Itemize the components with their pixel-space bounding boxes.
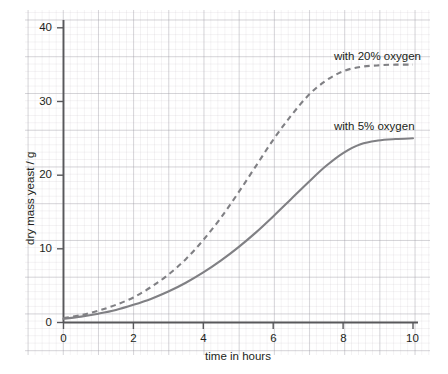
chart-figure: 40 30 20 10 0 0 2 4 6 8 10 dry mass yeas… [0,0,448,374]
series-annotation-20-percent-oxygen: with 20% oxygen [334,51,421,63]
xtick-label-0: 0 [52,333,75,345]
xtick-label-6: 6 [262,333,285,345]
xtick-label-10: 10 [401,333,424,345]
data-series-group [64,65,414,319]
xtick-label-2: 2 [122,333,145,345]
tick-marks [57,28,413,329]
ytick-label-30: 30 [30,96,52,108]
series-annotation-5-percent-oxygen: with 5% oxygen [334,121,415,133]
y-axis-title: dry mass yeast / g [24,152,36,245]
ytick-label-40: 40 [30,22,52,34]
ytick-label-0: 0 [30,317,52,329]
xtick-label-4: 4 [192,333,215,345]
series-line-5-percent-oxygen [64,138,414,319]
x-axis-title: time in hours [178,351,298,363]
xtick-label-8: 8 [332,333,355,345]
series-line-20-percent-oxygen [64,65,414,318]
